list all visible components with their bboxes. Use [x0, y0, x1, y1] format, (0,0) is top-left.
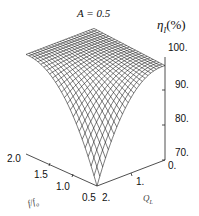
- x-tick-0-5: 0.5: [82, 193, 96, 203]
- z-tick-70: 70.: [175, 148, 189, 158]
- y-tick-0: 0.: [168, 161, 176, 171]
- z-tick-80: 80.: [175, 114, 189, 124]
- surface-mesh: [26, 28, 165, 186]
- x-tick-1-5: 1.5: [34, 170, 48, 180]
- z-axis-label: ηI(%): [157, 20, 186, 36]
- z-tick-90: 90.: [175, 80, 189, 90]
- y-axis-label-sub: L: [150, 199, 153, 205]
- x-tick-2-0: 2.0: [7, 154, 21, 164]
- mesh-line-f: [44, 38, 112, 67]
- chart-title: A = 0.5: [77, 8, 110, 18]
- z-axis: [162, 57, 165, 160]
- z-tick-100: 100.: [168, 43, 187, 53]
- mesh-line-q: [77, 35, 148, 76]
- y-axis: [97, 160, 165, 186]
- y-axis-label: QL: [143, 193, 153, 207]
- y-tick-1: 1.: [136, 177, 144, 187]
- z-axis-label-unit: (%): [166, 17, 186, 32]
- x-tick-1-0: 1.0: [56, 182, 70, 192]
- y-tick-2: 2.: [102, 193, 110, 203]
